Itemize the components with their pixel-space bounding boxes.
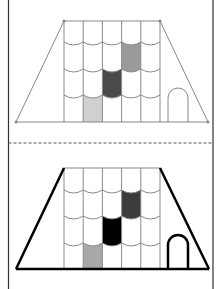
vertex-dot bbox=[63, 20, 66, 23]
vertex-dot bbox=[159, 20, 162, 23]
shaded-tile-1 bbox=[122, 190, 141, 219]
arch-door bbox=[168, 88, 188, 122]
arch-door bbox=[168, 235, 188, 269]
panel-bottom-bold-roof bbox=[16, 168, 209, 269]
vertex-dot bbox=[15, 121, 18, 124]
roof-tiles-diagram bbox=[0, 0, 217, 289]
panel-top-thin-roof bbox=[15, 20, 210, 124]
trapezoid-left-side bbox=[16, 168, 64, 269]
shaded-tile-3 bbox=[83, 95, 102, 122]
shaded-tile-3 bbox=[83, 243, 102, 269]
shaded-tile-2 bbox=[102, 69, 121, 98]
shaded-tile-1 bbox=[122, 42, 141, 72]
tile-scallop-row bbox=[64, 42, 160, 45]
trapezoid-right-side bbox=[160, 21, 208, 122]
tile-scallop-row bbox=[64, 190, 160, 193]
vertex-dot bbox=[207, 121, 210, 124]
trapezoid-left-side bbox=[16, 21, 64, 122]
shaded-tile-2 bbox=[102, 216, 121, 246]
tile-scallop-row bbox=[64, 216, 160, 219]
tile-scallop-row bbox=[64, 69, 160, 72]
